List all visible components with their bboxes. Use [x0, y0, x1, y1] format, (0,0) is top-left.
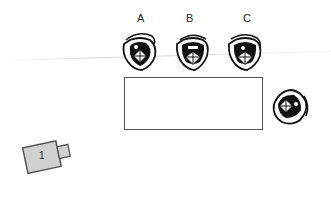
label-b: B	[186, 12, 193, 24]
camera-label: 1	[39, 150, 45, 161]
camera-icon: 1	[22, 137, 76, 179]
label-c: C	[243, 12, 251, 24]
floor-line	[0, 51, 331, 61]
label-a: A	[137, 12, 144, 24]
table	[124, 77, 263, 130]
person-c-icon	[225, 30, 265, 72]
person-d-icon	[268, 84, 308, 126]
person-a-icon	[120, 30, 160, 72]
person-b-icon	[173, 30, 213, 72]
